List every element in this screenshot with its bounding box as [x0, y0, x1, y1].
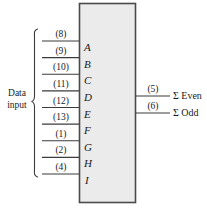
data-input-caption: Data input: [2, 88, 32, 112]
pin-number-9: (9): [44, 47, 78, 57]
pin-number-10: (10): [44, 63, 78, 73]
pin-label-d: D: [84, 92, 92, 103]
pin-number-12: (12): [44, 97, 78, 107]
pin-label-i: I: [85, 175, 89, 186]
pin-number-4: (4): [44, 163, 78, 173]
pin-number-2: (2): [44, 146, 78, 156]
pin-number-8: (8): [44, 30, 78, 40]
ic-body-rect: [80, 4, 136, 203]
pin-number-13: (13): [44, 113, 78, 123]
output-pin-number-6: (6): [138, 102, 168, 112]
pin-label-f: F: [84, 125, 91, 136]
pin-number-11: (11): [44, 80, 78, 90]
output-label-sum-odd: Σ Odd: [173, 108, 199, 118]
pin-label-b: B: [84, 59, 91, 70]
data-input-caption-line-2: input: [2, 100, 32, 112]
pin-label-a: A: [84, 42, 91, 53]
output-label-sum-even: Σ Even: [173, 91, 202, 101]
data-input-brace: [32, 29, 38, 177]
pin-label-g: G: [84, 142, 92, 153]
data-input-caption-line-1: Data: [2, 88, 32, 100]
pin-number-1: (1): [44, 130, 78, 140]
pin-label-c: C: [84, 75, 91, 86]
pin-label-h: H: [84, 158, 92, 169]
parity-ic-block-diagram: Data input (8) (9) (10) (11) (12) (13) (…: [0, 0, 207, 212]
pin-label-e: E: [84, 109, 91, 120]
output-pin-number-5: (5): [138, 85, 168, 95]
